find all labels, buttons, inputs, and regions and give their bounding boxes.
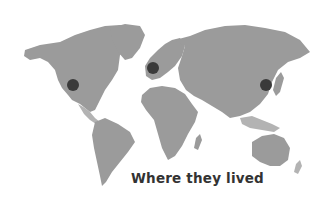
islands-southeast-asia (240, 116, 280, 132)
continent-australia (252, 134, 290, 166)
island-new-zealand (294, 160, 302, 174)
island-madagascar (194, 134, 202, 150)
continent-asia (175, 25, 310, 118)
continent-south-america (92, 118, 135, 186)
continent-africa (141, 86, 198, 160)
location-marker-western-north-america (67, 79, 79, 91)
location-marker-east-asia (260, 79, 272, 91)
location-marker-western-europe (147, 62, 159, 74)
map-caption: Where they lived (131, 170, 264, 186)
